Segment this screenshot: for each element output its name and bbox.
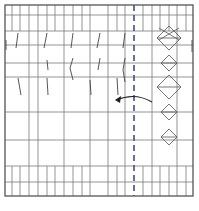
crease-mark [117,78,118,95]
crease-mark [44,33,47,48]
crease-marks [6,33,192,95]
grid-lines [5,5,193,196]
crease-mark [97,33,100,48]
crease-mark [16,33,18,48]
crease-mark [70,68,73,80]
crease-pattern-diagram [0,0,199,211]
crease-mark [47,60,48,70]
crease-mark [71,33,73,48]
crease-mark [98,58,100,70]
crease-mark [18,78,21,95]
paper-border [5,5,193,196]
crease-mark [47,78,48,95]
